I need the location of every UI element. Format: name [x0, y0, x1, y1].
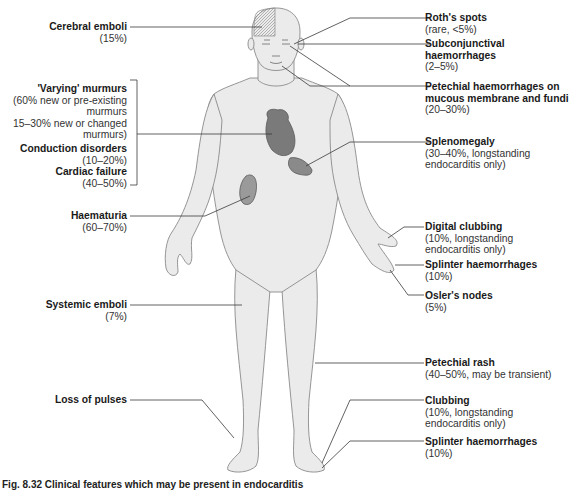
- left-arm: [165, 94, 222, 275]
- right-leg: [282, 268, 324, 472]
- label-oslers-nodes: Osler's nodes (5%): [425, 290, 493, 313]
- leader-pulses: [130, 400, 234, 438]
- label-petechial-mucous: Petechial haemorrhages on mucous membran…: [425, 81, 569, 116]
- right-arm: [330, 94, 397, 272]
- label-splinter-haemorrhages-foot: Splinter haemorrhages (10%): [425, 436, 537, 459]
- label-cerebral-emboli: Cerebral emboli (15%): [49, 21, 127, 44]
- leader-digital: [388, 227, 424, 238]
- murmur-bracket: [130, 80, 137, 185]
- figure-caption: Fig. 8.32 Clinical features which may be…: [2, 479, 303, 490]
- label-varying-murmurs: 'Varying' murmurs (60% new or pre-existi…: [13, 83, 127, 141]
- human-figure: [165, 8, 397, 472]
- label-splinter-haemorrhages-hand: Splinter haemorrhages (10%): [425, 259, 537, 282]
- leader-osler: [390, 270, 424, 295]
- label-roths-spots: Roth's spots (rare, <5%): [425, 12, 487, 35]
- left-ear: [248, 38, 254, 50]
- label-subconjunctival-haemorrhages: Subconjunctival haemorrhages (2–5%): [425, 38, 505, 73]
- label-clubbing-foot: Clubbing (10%, longstanding endocarditis…: [425, 395, 513, 430]
- label-petechial-rash: Petechial rash (40–50%, may be transient…: [425, 357, 552, 380]
- label-conduction-disorders: Conduction disorders (10–20%): [20, 143, 127, 166]
- label-haematuria: Haematuria (60–70%): [71, 210, 127, 233]
- label-cardiac-failure: Cardiac failure (40–50%): [55, 166, 127, 189]
- cerebral-region: [254, 8, 275, 36]
- left-leg: [228, 268, 270, 472]
- label-splenomegaly: Splenomegaly (30–40%, longstanding endoc…: [425, 136, 530, 171]
- label-loss-of-pulses: Loss of pulses: [55, 394, 127, 406]
- leader-roth: [294, 18, 430, 44]
- label-digital-clubbing: Digital clubbing (10%, longstanding endo…: [425, 221, 513, 256]
- leader-splinter-foot: [322, 441, 424, 468]
- label-systemic-emboli: Systemic emboli (7%): [46, 299, 127, 322]
